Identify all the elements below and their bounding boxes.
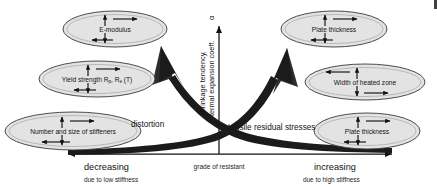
curve-label-tensile-residual-stresses: tensile residual stresses [228, 123, 315, 132]
vertical-axis-label-line2: termal expansion coeff. [207, 41, 216, 116]
diagram-canvas: E-modulus Yield strength Rp, Re (T) [0, 0, 437, 188]
factor-node-yield-strength[interactable]: Yield strength Rp, Re (T) [39, 61, 155, 97]
axis-label-increasing: increasing [314, 162, 356, 172]
factor-node-stiffeners[interactable]: Number and size of stiffeners [5, 112, 141, 150]
factor-label: Plate thickness [345, 128, 390, 135]
axis-sublabel-high-stiffness: due to high stiffness [303, 176, 360, 184]
axis-label-decreasing: decreasing [84, 162, 129, 172]
factor-label: E-modulus [99, 26, 131, 33]
vertical-axis-label-symbol: α [207, 15, 216, 20]
factor-node-e-modulus[interactable]: E-modulus [63, 11, 167, 47]
factor-label: Plate thickness [312, 26, 357, 33]
axis-sublabel-low-stiffness: due to low stiffness [84, 176, 138, 183]
axis-label-grade-of-resistant: grade of resistant [194, 163, 245, 171]
factor-node-plate-thickness-top[interactable]: Plate thickness [281, 11, 387, 47]
factor-label: Width of heated zone [334, 79, 397, 86]
factor-node-width-heated-zone[interactable]: Width of heated zone [305, 64, 425, 100]
factor-node-plate-thickness-bottom[interactable]: Plate thickness [314, 113, 420, 149]
factor-label: Number and size of stiffeners [30, 128, 116, 135]
vertical-axis-label-line1: shrinkage tendency, [198, 51, 207, 116]
diagram-svg: E-modulus Yield strength Rp, Re (T) [0, 0, 437, 188]
vertical-axis-label: shrinkage tendency, termal expansion coe… [198, 15, 216, 116]
vertical-axis-arrow-up [216, 26, 222, 33]
curve-label-distortion: distortion [131, 120, 165, 129]
